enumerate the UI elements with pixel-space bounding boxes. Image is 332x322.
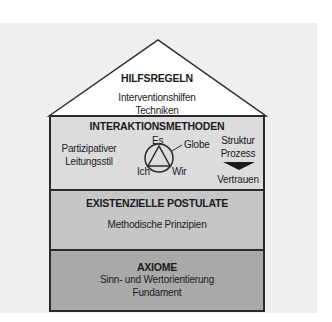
leitungsstil-line-1: Partizipativer: [57, 142, 121, 155]
roof-line-1: Interventionshilfen: [49, 91, 265, 104]
axiome-line-1: Sinn- und Wertorientierung: [51, 273, 263, 286]
interaktion-title: INTERAKTIONSMETHODEN: [51, 120, 263, 132]
struktur-prozess-label: Struktur Prozess: [213, 134, 263, 160]
axiome-title: AXIOME: [51, 261, 263, 273]
roof-title: HILFSREGELN: [49, 72, 265, 84]
symbol-ich: Ich: [137, 165, 150, 178]
down-arrow-icon: [223, 161, 255, 171]
roof-subtitle: Interventionshilfen Techniken: [49, 91, 265, 117]
layer-axiome: AXIOME Sinn- und Wertorientierung Fundam…: [49, 249, 265, 312]
layer-existenzielle-postulate: EXISTENZIELLE POSTULATE Methodische Prin…: [49, 189, 265, 250]
leitungsstil-line-2: Leitungsstil: [57, 155, 121, 168]
struktur-line: Struktur: [213, 134, 263, 147]
leitungsstil-label: Partizipativer Leitungsstil: [57, 142, 121, 168]
symbol-es: Es: [152, 134, 163, 147]
postulate-title: EXISTENZIELLE POSTULATE: [51, 197, 263, 209]
symbol-globe: Globe: [184, 138, 210, 151]
prozess-line: Prozess: [213, 147, 263, 160]
axiome-line-2: Fundament: [51, 286, 263, 299]
layer-interaktionsmethoden: INTERAKTIONSMETHODEN Partizipativer Leit…: [49, 115, 265, 190]
postulate-line-1: Methodische Prinzipien: [51, 218, 263, 231]
vertrauen-label: Vertrauen: [213, 173, 263, 186]
symbol-wir: Wir: [172, 165, 186, 178]
